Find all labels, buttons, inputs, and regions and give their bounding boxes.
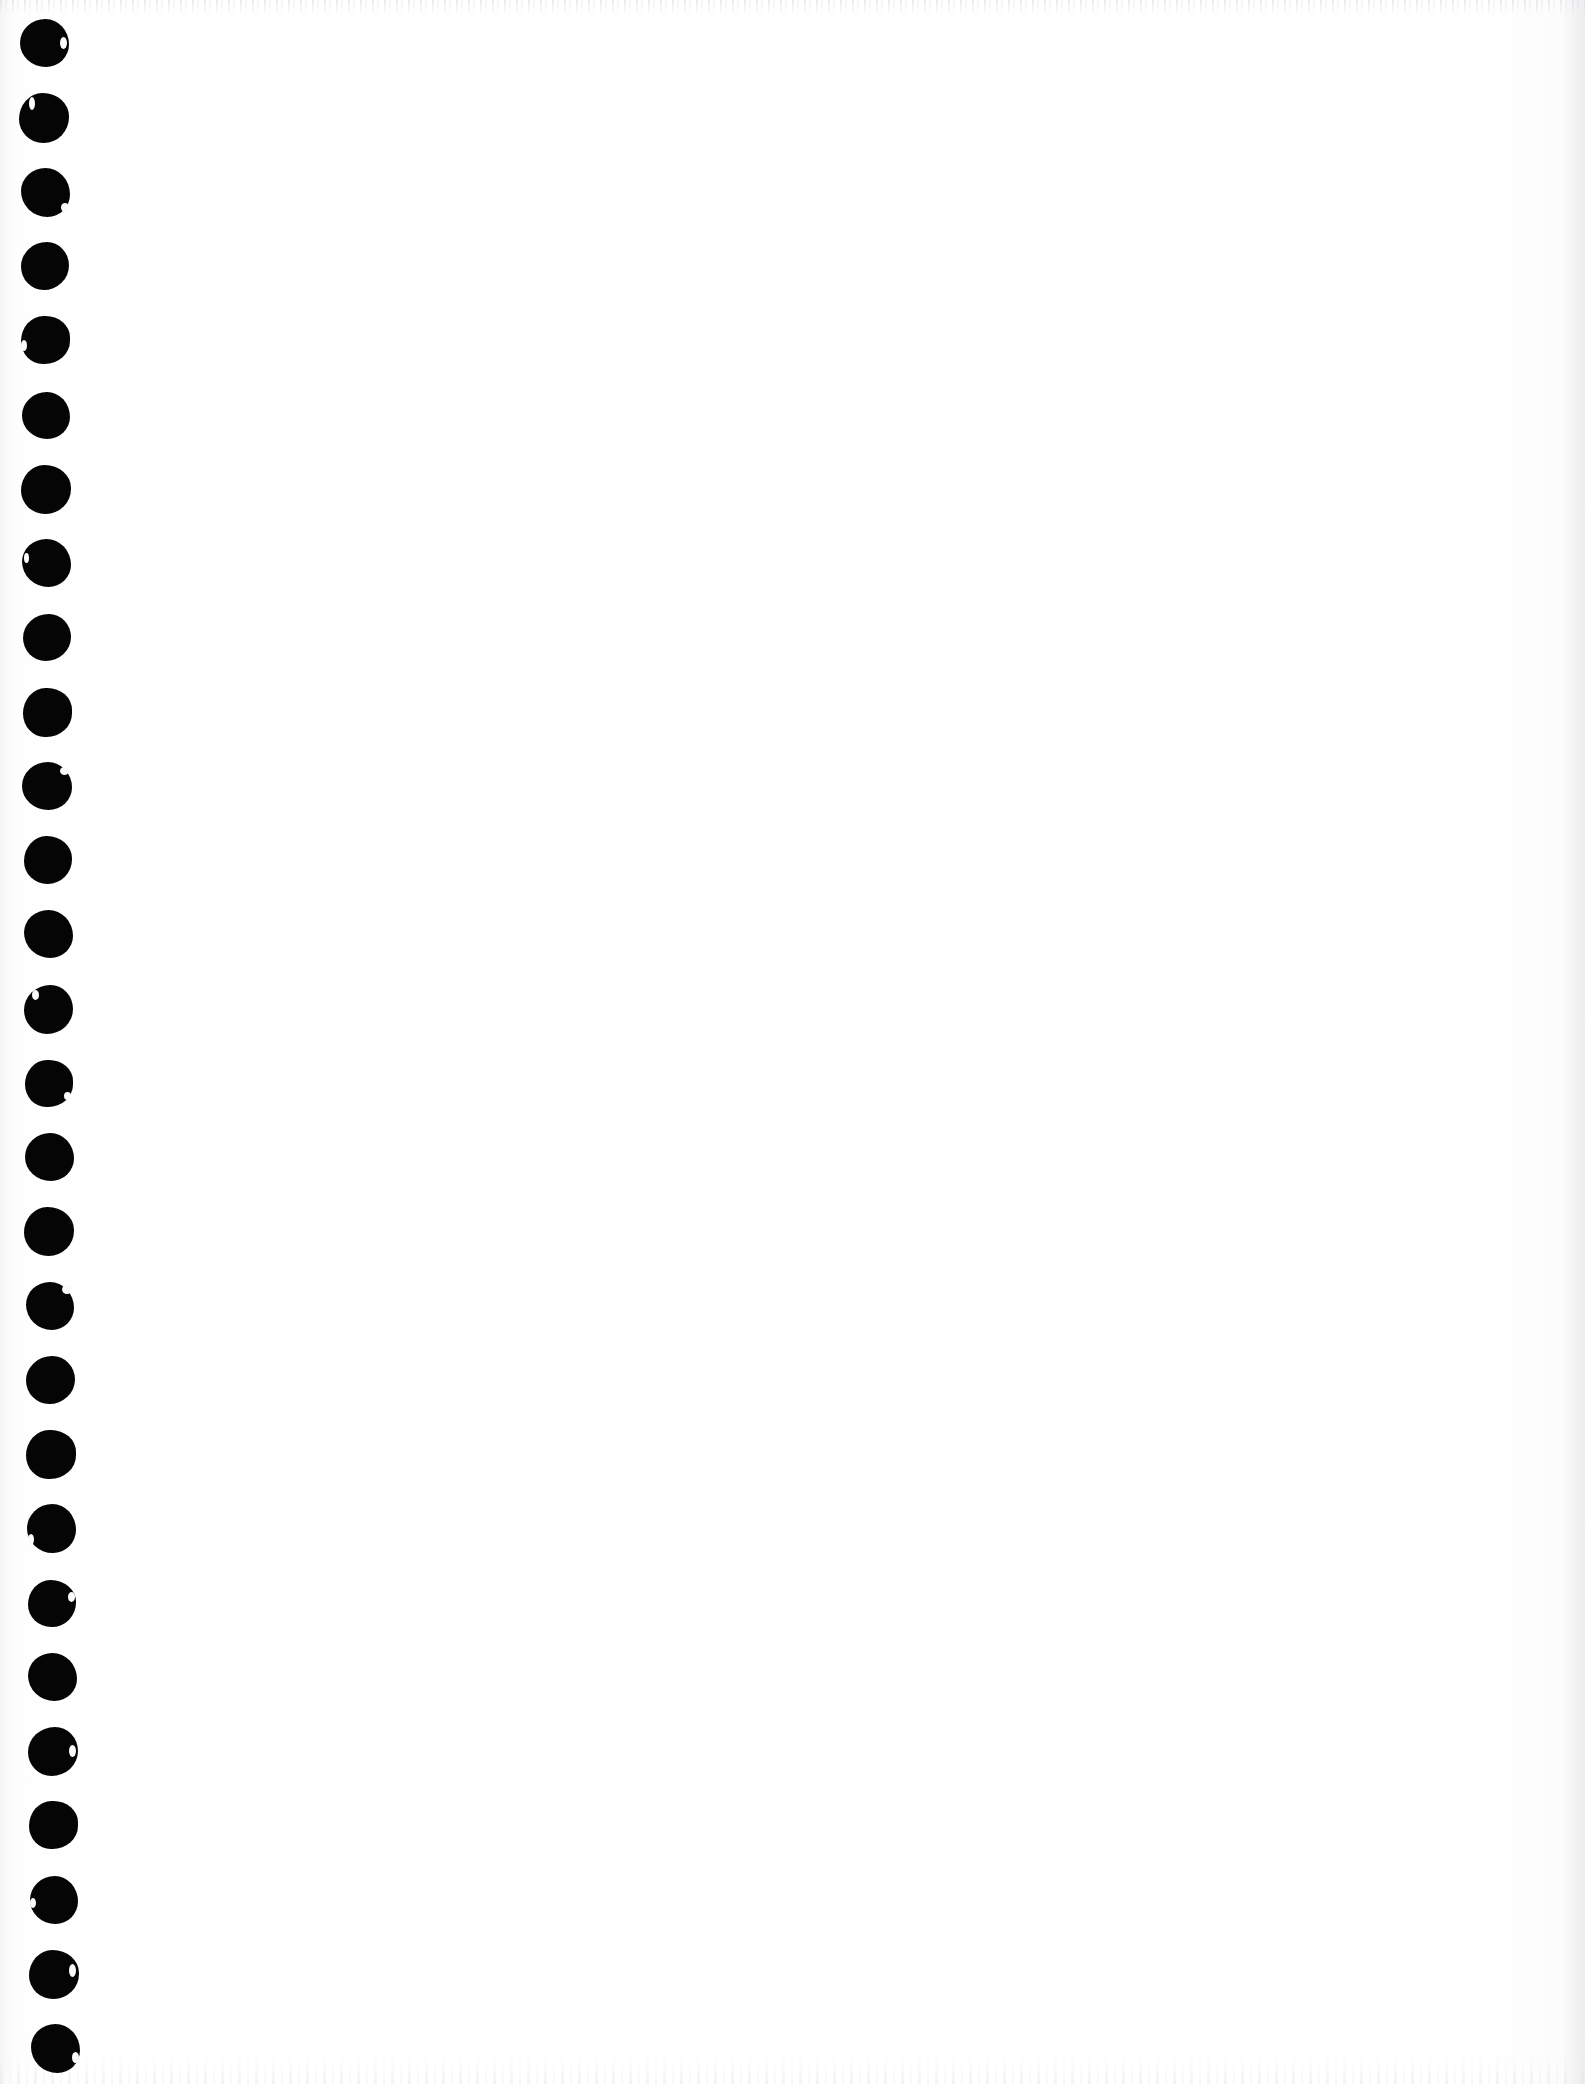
punch-hole-nick xyxy=(69,1745,76,1757)
punch-hole-ink xyxy=(27,1504,76,1553)
punch-hole xyxy=(30,1876,78,1924)
punch-hole-ink xyxy=(23,688,72,737)
punch-hole xyxy=(22,392,70,439)
punch-hole xyxy=(23,688,72,737)
punch-hole-ink xyxy=(21,316,70,364)
punch-hole-nick xyxy=(72,2052,79,2063)
punch-hole-ink xyxy=(21,242,69,290)
punch-hole-nick xyxy=(69,1964,76,1977)
punch-hole-nick xyxy=(30,1898,36,1908)
punch-hole xyxy=(29,1950,79,1999)
punch-hole xyxy=(25,1133,74,1181)
punch-hole-ink xyxy=(22,539,71,587)
punch-hole xyxy=(28,1580,76,1627)
blank-content-area xyxy=(110,0,1585,2084)
punch-hole-ink xyxy=(28,1580,76,1627)
punch-hole-ink xyxy=(29,1801,78,1849)
punch-hole xyxy=(28,1727,78,1776)
punch-hole xyxy=(24,1207,74,1256)
punch-hole xyxy=(21,316,70,364)
punch-hole xyxy=(24,910,73,958)
punch-hole-nick xyxy=(60,767,69,775)
punch-hole xyxy=(26,1282,74,1330)
punch-hole xyxy=(26,1430,76,1479)
punch-hole xyxy=(21,465,71,514)
punch-hole-nick xyxy=(29,97,35,110)
punch-hole xyxy=(20,19,69,67)
punch-hole xyxy=(27,1504,76,1553)
punch-hole xyxy=(24,985,73,1034)
punch-hole-nick xyxy=(60,37,67,49)
punch-hole-ink xyxy=(23,614,71,661)
punch-hole-ink xyxy=(24,985,73,1034)
punch-hole-ink xyxy=(30,1876,78,1924)
punch-hole xyxy=(29,1801,78,1849)
punch-hole xyxy=(26,1356,75,1404)
punch-hole-ink xyxy=(24,1207,74,1256)
punch-hole xyxy=(24,836,72,884)
punch-hole-nick xyxy=(21,340,27,351)
punch-hole xyxy=(22,539,71,587)
punch-hole xyxy=(22,762,72,810)
punch-hole-ink xyxy=(31,2024,80,2073)
punch-hole-nick xyxy=(61,203,69,212)
punch-hole-nick xyxy=(64,1092,71,1100)
punch-hole-nick xyxy=(32,990,39,1000)
punch-hole xyxy=(31,2024,80,2073)
punch-hole-ink xyxy=(24,910,73,958)
punch-hole-ink xyxy=(22,392,70,439)
punch-hole-ink xyxy=(25,1133,74,1181)
punch-hole xyxy=(21,168,70,217)
punch-hole xyxy=(19,93,69,143)
punch-hole-nick xyxy=(28,1534,34,1545)
punch-hole-nick xyxy=(24,553,29,563)
punch-hole-nick xyxy=(68,1592,75,1602)
punch-hole-ink xyxy=(26,1430,76,1479)
punched-hole-margin xyxy=(0,0,110,2084)
scanned-page xyxy=(0,0,1585,2084)
punch-hole-ink xyxy=(28,1653,77,1701)
punch-hole-ink xyxy=(21,465,71,514)
punch-hole xyxy=(25,1060,73,1107)
punch-hole-ink xyxy=(19,93,69,143)
punch-hole-nick xyxy=(62,1285,72,1294)
punch-hole xyxy=(21,242,69,290)
punch-hole-ink xyxy=(24,836,72,884)
punch-hole xyxy=(23,614,71,661)
punch-hole xyxy=(28,1653,77,1701)
punch-hole-ink xyxy=(26,1356,75,1404)
